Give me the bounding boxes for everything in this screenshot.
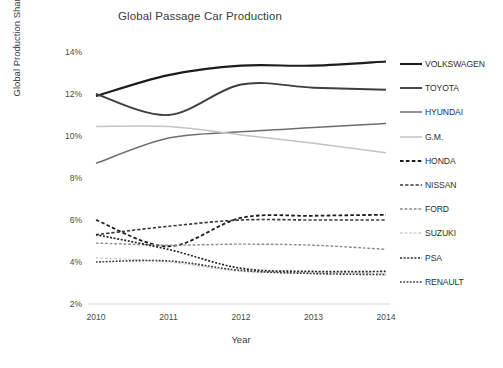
legend-label: G.M. [425, 132, 443, 142]
legend-item-psa[interactable]: PSA [400, 246, 503, 270]
legend-label: SUZUKI [425, 228, 456, 238]
legend-swatch-icon [400, 277, 422, 287]
y-tick-label: 10% [48, 131, 82, 141]
legend-item-honda[interactable]: HONDA [400, 149, 503, 173]
x-axis-title: Year [96, 334, 386, 345]
legend-item-renault[interactable]: RENAULT [400, 270, 503, 294]
chart-title: Global Passage Car Production [0, 10, 400, 22]
chart-container: Global Passage Car Production Global Pro… [0, 0, 503, 368]
legend-item-ford[interactable]: FORD [400, 197, 503, 221]
legend-label: NISSAN [425, 180, 456, 190]
x-tick-label: 2014 [366, 312, 406, 322]
legend-item-suzuki[interactable]: SUZUKI [400, 221, 503, 245]
y-tick-label: 12% [48, 89, 82, 99]
legend-swatch-icon [400, 59, 422, 69]
y-axis-title: Global Production Share (%) [11, 0, 22, 116]
legend-label: HYUNDAI [425, 107, 463, 117]
legend-swatch-icon [400, 228, 422, 238]
legend-label: TOYOTA [425, 83, 459, 93]
legend-item-volkswagen[interactable]: VOLKSWAGEN [400, 52, 503, 76]
y-tick-label: 2% [48, 299, 82, 309]
legend-swatch-icon [400, 253, 422, 263]
x-tick-label: 2013 [294, 312, 334, 322]
series-line-g-m [96, 126, 386, 153]
y-tick-label: 8% [48, 173, 82, 183]
legend-swatch-icon [400, 204, 422, 214]
series-line-volkswagen [96, 61, 386, 96]
legend-label: HONDA [425, 156, 456, 166]
legend-item-hyundai[interactable]: HYUNDAI [400, 100, 503, 124]
y-tick-label: 4% [48, 257, 82, 267]
legend-label: VOLKSWAGEN [425, 59, 485, 69]
series-line-nissan [96, 220, 386, 235]
series-line-toyota [96, 83, 386, 115]
legend-label: PSA [425, 253, 442, 263]
series-line-hyundai [96, 123, 386, 163]
x-tick-label: 2011 [149, 312, 189, 322]
legend-label: FORD [425, 204, 449, 214]
legend-item-nissan[interactable]: NISSAN [400, 173, 503, 197]
legend-swatch-icon [400, 107, 422, 117]
legend-swatch-icon [400, 83, 422, 93]
chart-legend: VOLKSWAGENTOYOTAHYUNDAIG.M.HONDANISSANFO… [400, 52, 503, 294]
legend-swatch-icon [400, 180, 422, 190]
y-tick-label: 14% [48, 47, 82, 57]
legend-item-g-m[interactable]: G.M. [400, 125, 503, 149]
legend-swatch-icon [400, 156, 422, 166]
legend-swatch-icon [400, 132, 422, 142]
x-tick-label: 2012 [221, 312, 261, 322]
y-tick-label: 6% [48, 215, 82, 225]
x-tick-label: 2010 [76, 312, 116, 322]
legend-item-toyota[interactable]: TOYOTA [400, 76, 503, 100]
legend-label: RENAULT [425, 277, 464, 287]
